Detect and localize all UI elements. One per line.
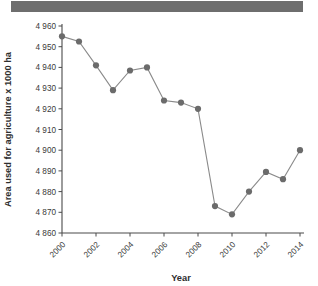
y-tick-label: 4 900 (36, 146, 57, 155)
data-point (263, 169, 269, 175)
x-axis: 20002002200420062008201020122014 (48, 233, 306, 259)
data-point (93, 62, 99, 68)
chart-figure: 4 8604 8704 8804 8904 9004 9104 9204 930… (0, 0, 318, 286)
data-point (127, 67, 133, 73)
data-point (110, 87, 116, 93)
data-series (59, 33, 303, 217)
y-tick-label: 4 930 (36, 84, 57, 93)
x-tick-label: 2012 (252, 240, 272, 260)
x-tick-label: 2004 (116, 240, 136, 260)
data-point (212, 203, 218, 209)
x-tick-label: 2014 (286, 240, 306, 260)
data-point (144, 64, 150, 70)
y-axis-title: Area used for agriculture x 1000 ha (3, 51, 13, 207)
x-axis-title: Year (171, 273, 191, 283)
data-point (59, 33, 65, 39)
data-point (195, 106, 201, 112)
y-tick-label: 4 870 (36, 208, 57, 217)
y-tick-label: 4 890 (36, 167, 57, 176)
x-tick-label: 2010 (218, 240, 238, 260)
y-tick-label: 4 860 (36, 229, 57, 238)
data-point (280, 176, 286, 182)
data-point (297, 147, 303, 153)
data-point (229, 211, 235, 217)
y-tick-label: 4 950 (36, 43, 57, 52)
y-tick-label: 4 960 (36, 22, 57, 31)
x-tick-label: 2002 (82, 240, 102, 260)
x-tick-label: 2000 (48, 240, 68, 260)
y-tick-label: 4 910 (36, 126, 57, 135)
line-chart: 4 8604 8704 8804 8904 9004 9104 9204 930… (0, 0, 318, 286)
y-tick-label: 4 940 (36, 63, 57, 72)
data-point (178, 99, 184, 105)
data-point (76, 38, 82, 44)
y-tick-label: 4 920 (36, 105, 57, 114)
y-axis: 4 8604 8704 8804 8904 9004 9104 9204 930… (36, 22, 63, 238)
x-tick-label: 2006 (150, 240, 170, 260)
data-point (161, 97, 167, 103)
x-tick-label: 2008 (184, 240, 204, 260)
data-point (246, 189, 252, 195)
y-tick-label: 4 880 (36, 188, 57, 197)
